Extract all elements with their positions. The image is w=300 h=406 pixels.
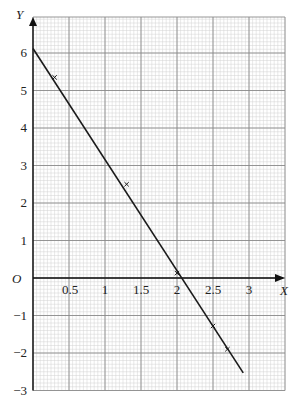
graph-paper-chart: 0.511.522.53654321−1−2−3 X Y O (0, 0, 300, 406)
x-tick-label: 2 (174, 282, 181, 297)
y-axis-arrow-icon (29, 17, 37, 26)
y-tick-label: 2 (21, 195, 28, 210)
y-tick-label: 4 (21, 120, 28, 135)
y-tick-label: 1 (21, 233, 28, 248)
x-tick-label: 1 (102, 282, 109, 297)
y-tick-label: 6 (21, 45, 28, 60)
x-tick-label: 1.5 (133, 282, 149, 297)
x-axis-label: X (279, 283, 289, 298)
y-tick-label: −3 (13, 383, 27, 398)
y-tick-label: −2 (13, 345, 27, 360)
minor-grid (33, 17, 285, 391)
x-tick-label: 0.5 (62, 282, 78, 297)
x-tick-label: 3 (246, 282, 253, 297)
x-tick-label: 2.5 (205, 282, 221, 297)
x-axis-arrow-icon (275, 274, 285, 282)
y-tick-label: 3 (21, 158, 28, 173)
y-tick-label: 5 (21, 83, 28, 98)
y-tick-label: −1 (13, 308, 27, 323)
y-axis-label: Y (16, 7, 25, 22)
origin-label: O (12, 271, 22, 286)
